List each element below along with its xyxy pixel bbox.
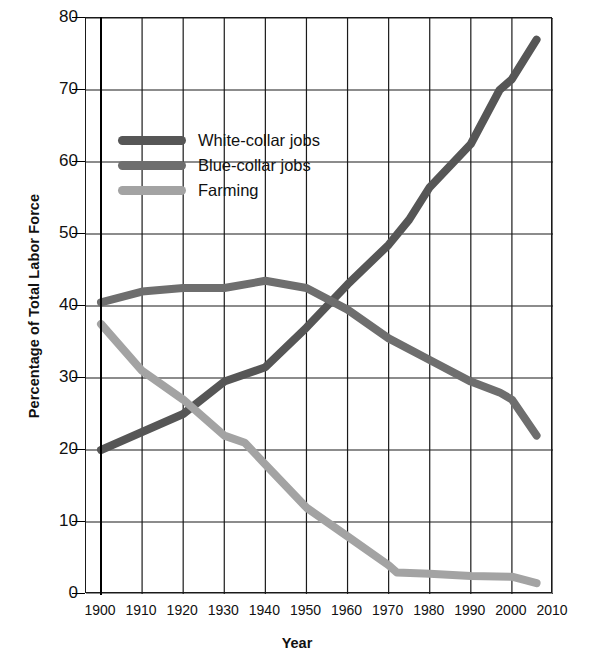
y-axis-tick-mark: [72, 89, 85, 90]
legend-color-swatch: [118, 186, 186, 195]
x-axis-tick-label: 1910: [118, 603, 164, 617]
legend-color-swatch: [118, 136, 186, 145]
x-axis-tick-label: 1950: [282, 603, 328, 617]
chart-root: Percentage of Total Labor Force 01020304…: [0, 0, 594, 662]
legend-item: Farming: [118, 178, 320, 203]
y-axis-tick-mark: [72, 521, 85, 522]
x-axis-tick-label: 1900: [77, 603, 123, 617]
x-axis-tick-label: 2010: [529, 603, 575, 617]
x-axis-tick-label: 1920: [159, 603, 205, 617]
chart-legend: White-collar jobsBlue-collar jobsFarming: [118, 128, 320, 203]
x-axis-tick-label: 1990: [447, 603, 493, 617]
x-axis-tick-label: 1960: [324, 603, 370, 617]
legend-label: Blue-collar jobs: [198, 157, 311, 174]
y-axis-tick-mark: [72, 233, 85, 234]
plot-area: [85, 17, 552, 593]
y-axis-tick-mark: [72, 449, 85, 450]
legend-label: Farming: [198, 182, 259, 199]
y-axis-tick-labels: 01020304050607080: [30, 0, 78, 662]
y-axis-tick-mark: [72, 305, 85, 306]
x-axis-tick-label: 1940: [241, 603, 287, 617]
x-axis-tick-label: 2000: [488, 603, 534, 617]
series-canvas: [86, 18, 553, 594]
y-axis-tick-mark: [72, 377, 85, 378]
legend-color-swatch: [118, 161, 186, 170]
y-axis-tick-mark: [72, 593, 85, 594]
x-axis-tick-label: 1930: [200, 603, 246, 617]
y-axis-tick-mark: [72, 17, 85, 18]
legend-item: Blue-collar jobs: [118, 153, 320, 178]
x-axis-title: Year: [0, 635, 594, 651]
legend-item: White-collar jobs: [118, 128, 320, 153]
y-axis-tick-mark: [72, 161, 85, 162]
x-axis-tick-label: 1980: [406, 603, 452, 617]
legend-label: White-collar jobs: [198, 132, 320, 149]
x-axis-tick-label: 1970: [365, 603, 411, 617]
y-axis-line: [100, 17, 102, 595]
